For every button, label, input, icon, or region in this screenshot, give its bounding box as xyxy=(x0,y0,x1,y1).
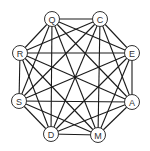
node-label: M xyxy=(94,131,102,141)
node-label: D xyxy=(48,130,55,140)
edge-a-s xyxy=(19,101,132,102)
edge-d-r xyxy=(20,53,51,134)
edge-m-r xyxy=(20,53,98,135)
complete-graph-diagram: QCEAMDSR xyxy=(0,0,150,151)
node-q: Q xyxy=(45,12,60,27)
node-e: E xyxy=(125,46,140,61)
node-label: A xyxy=(129,98,135,108)
node-c: C xyxy=(93,12,108,27)
node-m: M xyxy=(91,128,106,143)
node-label: Q xyxy=(48,15,55,25)
edge-e-d xyxy=(51,53,132,134)
node-a: A xyxy=(125,95,140,110)
node-label: C xyxy=(97,15,104,25)
edge-q-a xyxy=(52,19,132,102)
node-d: D xyxy=(44,127,59,142)
node-label: R xyxy=(17,49,24,59)
edges-layer xyxy=(19,19,132,135)
edge-q-d xyxy=(51,19,52,134)
node-label: S xyxy=(16,97,22,107)
node-label: E xyxy=(129,49,135,59)
node-r: R xyxy=(13,46,28,61)
edge-c-s xyxy=(19,19,100,101)
node-s: S xyxy=(12,94,27,109)
edge-c-m xyxy=(98,19,100,135)
